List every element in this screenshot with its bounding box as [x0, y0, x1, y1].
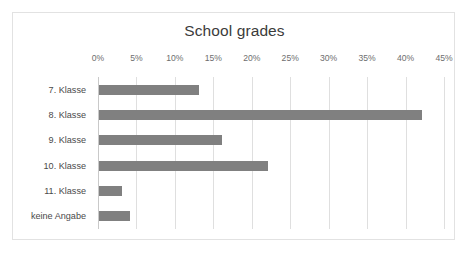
bar [99, 161, 268, 171]
value-axis-line [98, 77, 99, 229]
y-category-label: 9. Klasse [49, 135, 86, 145]
chart-title: School grades [13, 22, 456, 40]
x-tick-label: 15% [205, 53, 222, 63]
x-tick-label: 35% [359, 53, 376, 63]
y-category-label: keine Angabe [31, 211, 86, 221]
bar [99, 186, 122, 196]
chart-frame: School grades 0%5%10%15%20%25%30%35%40%4… [12, 12, 455, 240]
gridline [329, 77, 330, 229]
x-axis-tick-labels: 0%5%10%15%20%25%30%35%40%45% [98, 53, 444, 67]
y-category-label: 8. Klasse [49, 110, 86, 120]
x-tick-label: 10% [166, 53, 183, 63]
gridline [444, 77, 445, 229]
bar [99, 135, 222, 145]
x-tick-label: 40% [397, 53, 414, 63]
bar [99, 211, 130, 221]
gridline [290, 77, 291, 229]
gridline [213, 77, 214, 229]
gridline [367, 77, 368, 229]
gridline [406, 77, 407, 229]
gridline [252, 77, 253, 229]
x-tick-label: 20% [243, 53, 260, 63]
plot-area [98, 77, 444, 229]
x-tick-label: 0% [92, 53, 104, 63]
bar [99, 85, 199, 95]
y-category-label: 7. Klasse [49, 85, 86, 95]
x-tick-label: 5% [130, 53, 142, 63]
gridline [136, 77, 137, 229]
y-category-label: 10. Klasse [44, 161, 86, 171]
bar [99, 110, 422, 120]
gridline [175, 77, 176, 229]
y-category-label: 11. Klasse [44, 186, 86, 196]
x-tick-label: 45% [435, 53, 452, 63]
x-tick-label: 25% [282, 53, 299, 63]
y-axis-category-labels: 7. Klasse8. Klasse9. Klasse10. Klasse11.… [13, 77, 93, 229]
x-tick-label: 30% [320, 53, 337, 63]
